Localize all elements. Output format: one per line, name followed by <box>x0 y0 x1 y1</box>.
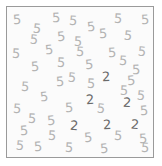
distractor-glyph[interactable]: 5 <box>76 45 85 59</box>
distractor-glyph[interactable]: 5 <box>13 102 22 116</box>
distractor-glyph[interactable]: 5 <box>99 27 108 41</box>
distractor-glyph[interactable]: 5 <box>44 43 54 57</box>
target-glyph[interactable]: 2 <box>70 119 79 133</box>
target-glyph[interactable]: 2 <box>86 93 95 107</box>
distractor-glyph[interactable]: 5 <box>114 12 123 25</box>
distractor-glyph[interactable]: 5 <box>137 45 146 59</box>
target-glyph[interactable]: 2 <box>123 96 132 109</box>
distractor-glyph[interactable]: 5 <box>56 30 65 44</box>
target-glyph[interactable]: 2 <box>103 118 112 131</box>
distractor-glyph[interactable]: 5 <box>108 46 117 59</box>
target-glyph[interactable]: 2 <box>102 70 111 83</box>
distractor-glyph[interactable]: 5 <box>39 90 49 104</box>
distractor-glyph[interactable]: 5 <box>28 112 37 125</box>
distractor-glyph[interactable]: 5 <box>86 20 96 34</box>
distractor-glyph[interactable]: 5 <box>31 60 40 74</box>
distractor-glyph[interactable]: 5 <box>83 131 92 145</box>
visual-search-stimulus: 5555555555555555555555525555555225555552… <box>0 0 162 166</box>
target-glyph[interactable]: 2 <box>130 118 139 132</box>
distractor-glyph[interactable]: 5 <box>65 141 74 154</box>
distractor-glyph[interactable]: 5 <box>12 47 21 60</box>
search-field: 5555555555555555555555525555555225555552… <box>6 6 154 158</box>
distractor-glyph[interactable]: 5 <box>141 13 150 26</box>
distractor-glyph[interactable]: 5 <box>114 129 123 143</box>
distractor-glyph[interactable]: 5 <box>57 56 66 69</box>
distractor-glyph[interactable]: 5 <box>48 129 57 142</box>
distractor-glyph[interactable]: 5 <box>123 29 133 43</box>
distractor-glyph[interactable]: 5 <box>65 101 74 114</box>
distractor-glyph[interactable]: 5 <box>29 33 38 47</box>
distractor-glyph[interactable]: 5 <box>69 14 78 28</box>
distractor-glyph[interactable]: 5 <box>13 13 22 27</box>
distractor-glyph[interactable]: 5 <box>56 75 65 89</box>
distractor-glyph[interactable]: 5 <box>136 89 145 103</box>
distractor-glyph[interactable]: 5 <box>52 11 61 24</box>
distractor-glyph[interactable]: 5 <box>15 139 24 153</box>
distractor-glyph[interactable]: 5 <box>21 80 30 94</box>
distractor-glyph[interactable]: 5 <box>99 142 108 156</box>
distractor-glyph[interactable]: 5 <box>140 104 149 118</box>
distractor-glyph[interactable]: 5 <box>67 71 76 85</box>
distractor-glyph[interactable]: 5 <box>34 140 43 154</box>
distractor-glyph[interactable]: 5 <box>87 77 96 90</box>
distractor-glyph[interactable]: 5 <box>84 58 93 72</box>
distractor-glyph[interactable]: 5 <box>96 102 105 116</box>
distractor-glyph[interactable]: 5 <box>46 114 55 128</box>
distractor-glyph[interactable]: 5 <box>20 124 29 138</box>
distractor-glyph[interactable]: 5 <box>141 141 150 155</box>
distractor-glyph[interactable]: 5 <box>119 54 128 68</box>
